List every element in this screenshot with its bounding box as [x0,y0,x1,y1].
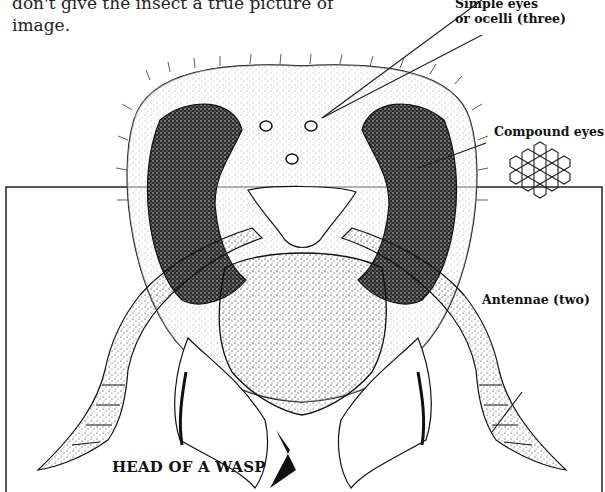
mandible-tip [270,430,296,488]
wasp-head-illustration [0,0,605,492]
ocellus-right [305,121,317,131]
figure-title: HEAD OF A WASP [112,458,266,476]
label-compound-eyes: Compound eyes [494,124,604,139]
label-simple-eyes: Simple eyes or ocelli (three) [455,0,566,26]
compound-eye-hex-detail [510,142,570,198]
label-antennae: Antennae (two) [482,292,590,307]
ocellus-center [286,154,298,164]
ocellus-left [260,121,272,131]
